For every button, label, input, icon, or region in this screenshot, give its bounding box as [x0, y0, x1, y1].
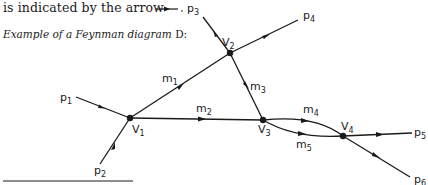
- external-line-p6: [343, 136, 410, 177]
- vertex-label-v3: V3: [258, 123, 271, 138]
- external-label-p4: p4: [303, 9, 315, 24]
- internal-label-m1: m1: [162, 72, 178, 87]
- external-line-p1: [76, 97, 130, 118]
- vertex-label-v2: V2: [222, 36, 235, 51]
- internal-label-m3: m3: [250, 80, 266, 95]
- external-label-p5: p5: [414, 126, 426, 141]
- vertex-v4: [340, 133, 346, 139]
- internal-label-m2: m2: [196, 102, 212, 117]
- feynman-diagram: V1 V2 V3 V4 p1 p2 p3 p4 p5 p6 m1 m2 m3 m…: [0, 0, 428, 185]
- internal-line-m1: [130, 53, 230, 118]
- external-label-p3: p3: [187, 2, 199, 17]
- vertex-label-v1: V1: [132, 123, 145, 138]
- vertex-label-v4: V4: [341, 120, 354, 135]
- external-label-p2: p2: [94, 164, 106, 179]
- vertex-v1: [127, 115, 133, 121]
- external-label-p6: p6: [414, 173, 426, 185]
- external-label-p1: p1: [60, 91, 72, 106]
- external-line-p4: [230, 20, 298, 53]
- internal-label-m4: m4: [303, 103, 319, 118]
- legend-arrow-icon: [156, 7, 183, 12]
- internal-label-m5: m5: [296, 138, 312, 153]
- external-line-p2: [100, 118, 130, 164]
- internal-line-m2: [130, 117, 263, 122]
